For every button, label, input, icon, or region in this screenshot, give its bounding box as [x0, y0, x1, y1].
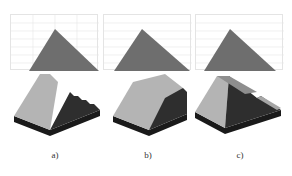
triangle-profile-c — [196, 15, 284, 71]
panel-label-b: b) — [103, 150, 193, 160]
panel-b: b) — [103, 0, 193, 176]
triangle-profile-a — [11, 15, 99, 71]
solid-a — [10, 72, 100, 137]
profile-grid-a — [10, 14, 98, 70]
solid-b — [103, 72, 193, 137]
panel-label-c: c) — [195, 150, 285, 160]
panel-label-a: a) — [10, 150, 100, 160]
profile-grid-c — [195, 14, 283, 70]
panel-c: c) — [195, 0, 285, 176]
panel-a: a) — [10, 0, 100, 176]
triangle-profile-b — [104, 15, 192, 71]
profile-grid-b — [103, 14, 191, 70]
solid-c — [195, 72, 285, 137]
